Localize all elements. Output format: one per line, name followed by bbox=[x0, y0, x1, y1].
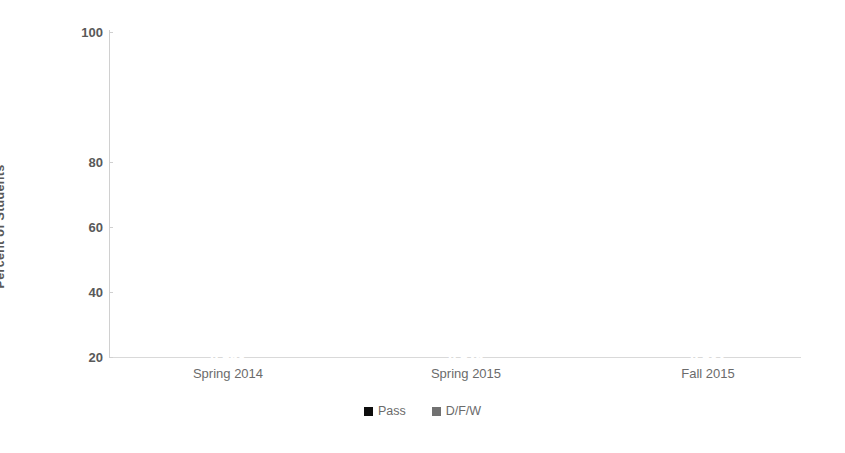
legend-item-dfw[interactable]: D/F/W bbox=[432, 404, 481, 418]
y-axis-title: Percent of Students bbox=[0, 0, 60, 453]
bar-value-label-pass: 0.683 bbox=[691, 350, 726, 365]
chart-legend: Pass D/F/W bbox=[0, 404, 845, 418]
stacked-bar-chart: Percent of Students 20 40 60 80 100 0.34… bbox=[0, 0, 845, 453]
y-tick-label-20: 20 bbox=[63, 350, 103, 365]
x-category-label-spring-2014: Spring 2014 bbox=[138, 366, 318, 381]
y-tick-label-80: 80 bbox=[63, 155, 103, 170]
legend-swatch-icon-dfw bbox=[432, 407, 441, 416]
x-category-label-spring-2015: Spring 2015 bbox=[376, 366, 556, 381]
legend-item-pass[interactable]: Pass bbox=[364, 404, 406, 418]
y-axis-tick-labels: 20 40 60 80 100 bbox=[55, 32, 103, 357]
y-tick-label-40: 40 bbox=[63, 285, 103, 300]
y-tick-label-60: 60 bbox=[63, 220, 103, 235]
bar-value-label-pass: 0.658 bbox=[211, 350, 246, 365]
bar-value-label-pass: 0.674 bbox=[449, 350, 484, 365]
x-category-label-fall-2015: Fall 2015 bbox=[618, 366, 798, 381]
legend-swatch-icon-pass bbox=[364, 407, 373, 416]
legend-label-pass: Pass bbox=[378, 404, 406, 418]
legend-label-dfw: D/F/W bbox=[446, 404, 481, 418]
y-tick-mark-20 bbox=[109, 357, 113, 358]
plot-area: 0.342 0.658 0.326 0.674 0.317 0.683 bbox=[109, 32, 801, 357]
y-tick-label-100: 100 bbox=[63, 25, 103, 40]
